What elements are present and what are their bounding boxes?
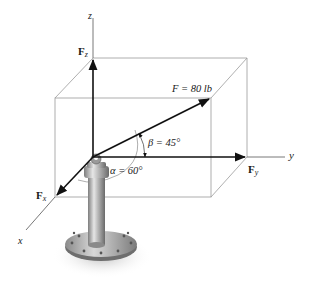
force-diagram: z y x Fz Fy Fx F = 80 lb β = 45° α = 60° bbox=[0, 0, 312, 284]
fz-label: Fz bbox=[78, 46, 88, 59]
fy-label: Fy bbox=[248, 164, 258, 177]
beta-angle-label: β = 45° bbox=[148, 138, 180, 149]
beta-arc bbox=[139, 133, 145, 157]
axes bbox=[26, 18, 285, 230]
y-axis-label: y bbox=[289, 150, 294, 161]
alpha-angle-label: α = 60° bbox=[110, 166, 143, 177]
x-axis-label: x bbox=[18, 236, 22, 246]
z-axis-label: z bbox=[88, 11, 92, 21]
force-magnitude-label: F = 80 lb bbox=[172, 84, 212, 95]
fx-label: Fx bbox=[36, 190, 46, 203]
